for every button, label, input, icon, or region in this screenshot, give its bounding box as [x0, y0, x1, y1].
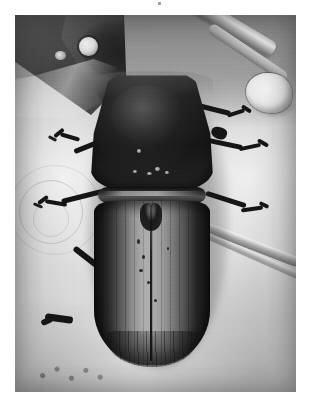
pronotum-pit	[137, 149, 141, 153]
leg-left-hind-tarsus	[40, 316, 53, 326]
elytra-speck	[142, 255, 145, 259]
pronotum-pit	[147, 172, 152, 175]
pronotum-pit	[165, 171, 169, 174]
beetle-photograph	[15, 15, 296, 392]
elytra-speck	[167, 247, 169, 250]
elytra-speck	[139, 269, 143, 272]
beetle-elytra-apex	[107, 331, 197, 367]
leg-right-fore-tibia	[227, 108, 245, 117]
beetle-junction-highlight	[103, 191, 201, 196]
pronotum-pit	[133, 170, 137, 173]
beetle-elytra-highlight	[127, 215, 167, 335]
pronotum-pit	[155, 167, 160, 171]
elytra-speck	[154, 299, 157, 302]
leg-left-fore-tibia	[60, 132, 80, 141]
leg-right-mid-tibia	[239, 143, 261, 151]
scan-artifact-speck	[158, 2, 161, 5]
elytra-speck	[147, 281, 150, 284]
page-root	[0, 0, 309, 417]
elytra-speck	[137, 239, 140, 244]
beetle-pronotum-sheen	[111, 85, 181, 141]
beetle-specimen	[15, 15, 296, 392]
